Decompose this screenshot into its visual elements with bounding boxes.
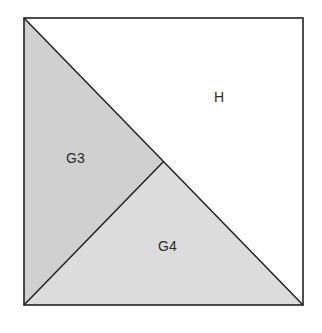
square-dissection-diagram: H G3 G4 <box>0 0 322 333</box>
label-g4: G4 <box>158 238 177 254</box>
label-g3: G3 <box>66 150 85 166</box>
label-h: H <box>214 89 224 105</box>
